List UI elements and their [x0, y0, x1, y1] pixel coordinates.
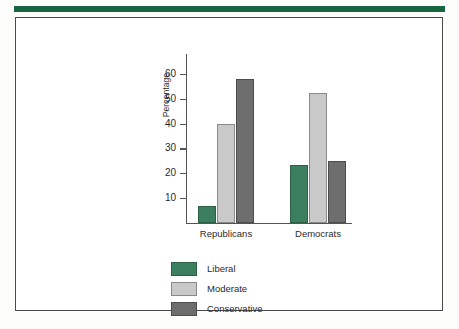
- chart-figure: Percentage 102030405060 RepublicansDemoc…: [0, 0, 459, 329]
- y-tick-label: 10: [142, 193, 176, 203]
- legend-label-liberal: Liberal: [207, 263, 236, 274]
- x-axis-label-democrats: Democrats: [278, 228, 358, 239]
- chart-frame: Percentage 102030405060 RepublicansDemoc…: [15, 17, 443, 311]
- x-axis-label-republicans: Republicans: [186, 228, 266, 239]
- bar-republicans-liberal: [198, 206, 216, 223]
- chart-legend: LiberalModerateConservative: [171, 259, 262, 319]
- plot-area: Percentage 102030405060 RepublicansDemoc…: [154, 54, 354, 226]
- y-tick-mark: [180, 148, 186, 149]
- legend-item-conservative: Conservative: [171, 299, 262, 318]
- legend-item-liberal: Liberal: [171, 259, 262, 278]
- bar-republicans-conservative: [236, 79, 254, 223]
- bar-republicans-moderate: [217, 124, 235, 223]
- legend-label-moderate: Moderate: [207, 283, 247, 294]
- legend-swatch-moderate: [171, 282, 197, 296]
- y-axis-line: [186, 54, 187, 224]
- bar-democrats-conservative: [328, 161, 346, 223]
- legend-swatch-liberal: [171, 262, 197, 276]
- y-tick-mark: [180, 124, 186, 125]
- y-tick-mark: [180, 74, 186, 75]
- header-rule: [14, 6, 445, 12]
- bar-democrats-liberal: [290, 165, 308, 223]
- x-axis-line: [186, 223, 352, 224]
- y-tick-label: 20: [142, 168, 176, 178]
- y-tick-mark: [180, 198, 186, 199]
- legend-label-conservative: Conservative: [207, 303, 262, 314]
- y-tick-label: 50: [142, 94, 176, 104]
- legend-item-moderate: Moderate: [171, 279, 262, 298]
- y-tick-label: 30: [142, 143, 176, 153]
- legend-swatch-conservative: [171, 302, 197, 316]
- y-tick-label: 60: [142, 69, 176, 79]
- y-tick-mark: [180, 99, 186, 100]
- y-tick-label: 40: [142, 119, 176, 129]
- y-tick-mark: [180, 173, 186, 174]
- bar-democrats-moderate: [309, 93, 327, 223]
